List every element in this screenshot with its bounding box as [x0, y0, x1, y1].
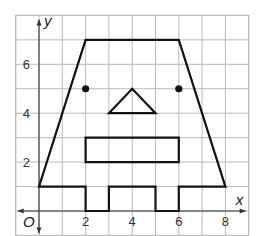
y-tick-label: 4 — [23, 106, 30, 121]
y-axis-arrow-down — [37, 227, 42, 233]
x-axis-arrow-right — [240, 209, 246, 214]
x-tick-label: 4 — [129, 214, 136, 229]
left-eye-dot — [82, 85, 89, 92]
y-tick-label: 6 — [23, 57, 30, 72]
grid-lines — [16, 15, 249, 235]
y-tick-label: 2 — [23, 155, 30, 170]
x-tick-label: 6 — [175, 214, 182, 229]
x-axis-label: x — [235, 191, 244, 208]
x-tick-label: 8 — [222, 214, 229, 229]
right-eye-dot — [175, 85, 182, 92]
origin-label: O — [23, 213, 35, 230]
x-tick-label: 2 — [82, 214, 89, 229]
coordinate-plane: y x O 2468246 — [0, 0, 264, 236]
axis-labels: y x O 2468246 — [23, 12, 244, 230]
y-axis-arrow-up — [37, 19, 42, 25]
